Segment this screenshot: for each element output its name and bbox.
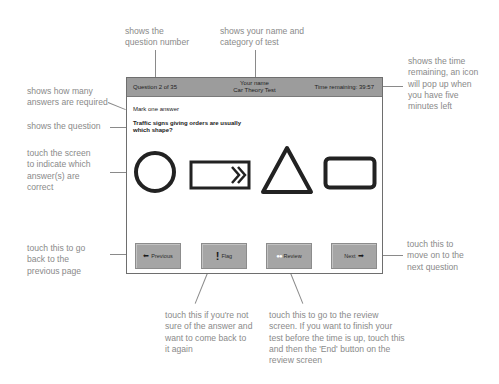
leader-line (383, 255, 403, 256)
leader-line (110, 127, 126, 128)
test-screen: Question 2 of 35 Your name Car Theory Te… (126, 77, 383, 274)
previous-label: Previous (151, 253, 172, 259)
leader-line (110, 172, 126, 173)
leader-line (290, 273, 303, 304)
leader-line (255, 50, 256, 77)
next-label: Next (344, 253, 355, 259)
arrow-left-icon: ⬅ (143, 252, 149, 260)
answer-triangle[interactable] (259, 144, 315, 196)
answer-instruction: Mark one answer (133, 106, 179, 112)
time-remaining: Time remaining: 39:57 (315, 84, 374, 90)
annotation-review: touch this to go to the review screen. I… (269, 310, 405, 366)
question-text: Traffic signs giving orders are usually … (133, 120, 243, 134)
header-bar: Question 2 of 35 Your name Car Theory Te… (127, 78, 382, 97)
annotation-name-category: shows your name and category of test (220, 26, 304, 49)
exclamation-icon: ! (216, 250, 220, 262)
annotation-touch-screen: touch the screen to indicate which answe… (27, 148, 91, 193)
next-button[interactable]: Next ➡ (331, 243, 377, 269)
leader-line (110, 254, 126, 255)
annotation-the-question: shows the question (27, 121, 101, 132)
leader-line (195, 273, 208, 304)
glasses-icon: ●● (276, 253, 281, 259)
arrow-right-icon: ➡ (358, 252, 364, 260)
annotation-time-remaining: shows the time remaining, an icon will p… (408, 56, 478, 112)
flag-label: Flag (221, 253, 232, 259)
answer-circle[interactable] (133, 150, 177, 194)
annotation-answers-required: shows how many answers are required (27, 86, 108, 109)
annotation-flag: touch this if you're not sure of the ans… (165, 310, 252, 355)
leader-line (155, 50, 156, 77)
answer-arrow-rectangle[interactable] (189, 160, 251, 190)
flag-button[interactable]: ! Flag (201, 243, 247, 269)
review-label: Review (284, 253, 302, 259)
answer-rectangle[interactable] (323, 156, 377, 190)
annotation-next: touch this to move on to the next questi… (407, 239, 464, 273)
annotation-question-number: shows the question number (125, 26, 189, 49)
annotation-previous: touch this to go back to the previous pa… (27, 243, 85, 277)
review-button[interactable]: ●● Review (266, 243, 312, 269)
leader-line (383, 86, 403, 87)
leader-line (108, 102, 126, 110)
previous-button[interactable]: ⬅ Previous (135, 243, 181, 269)
